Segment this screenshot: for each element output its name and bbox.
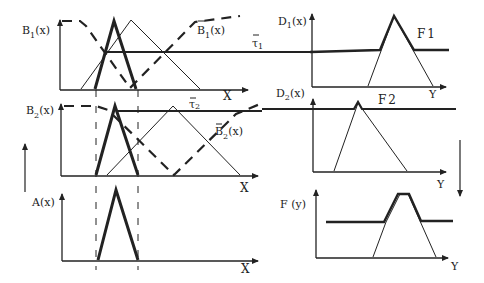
b2-xlabel: X [240,181,249,195]
f-xlabel: Y [450,260,459,273]
d2-fuzzy-label: F2 [378,93,396,107]
b1-ylabel: B1(x) [22,24,50,40]
panel-b2: B2(x) τ2 B2(x) X [26,98,262,195]
panel-a: A(x) X [31,190,258,276]
b2-ylabel: B2(x) [26,104,54,120]
f-aggregated-output [326,194,453,222]
b2-threshold-label: τ2 [189,98,200,111]
d2-ylabel: D2(x) [276,87,305,102]
d1-xlabel: Y [428,88,437,101]
b2-complement-curve [64,104,260,175]
d2-xlabel: Y [436,178,445,191]
d2-membership-triangle [334,103,407,171]
diagram-canvas: B1(x) B1(x) τ1 X D1(x) F1 Y B2(x) τ2 B2(… [0,0,484,283]
f-membership-trapezoid [373,194,436,257]
f-ylabel: F (y) [280,198,306,211]
panel-b1: B1(x) B1(x) τ1 X [22,16,310,103]
a-xlabel: X [241,262,250,276]
b1-xlabel: X [223,89,232,103]
panel-d2: D2(x) F2 Y [262,87,456,191]
b2-complement-label: B2(x) [215,125,243,141]
b1-threshold-label: τ1 [252,37,263,51]
panel-f: F (y) Y [280,190,459,273]
a-input-triangle [98,190,138,260]
b1-complement-label: B1(x) [197,24,225,40]
d2-output-envelope [262,102,456,109]
d1-ylabel: D1(x) [278,15,307,30]
b1-input-triangle [95,21,136,89]
fuzzy-inference-diagram: B1(x) B1(x) τ1 X D1(x) F1 Y B2(x) τ2 B2(… [0,0,484,283]
d1-fuzzy-label: F1 [417,27,435,41]
a-ylabel: A(x) [31,196,55,209]
